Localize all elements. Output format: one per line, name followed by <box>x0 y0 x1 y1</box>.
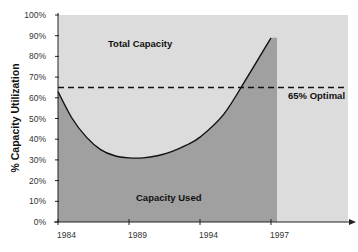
y-axis-label: % Capacity Utilization <box>9 63 21 172</box>
y-tick-label: 70% <box>29 72 46 82</box>
capacity-utilization-chart: 0%10%20%30%40%50%60%70%80%90%100% 198419… <box>0 0 358 252</box>
y-tick-label: 80% <box>29 51 46 61</box>
total-capacity-label: Total Capacity <box>108 38 173 49</box>
y-tick-label: 20% <box>29 176 46 186</box>
x-tick-label: 1994 <box>199 230 218 240</box>
y-tick-label: 30% <box>29 155 46 165</box>
y-tick-label: 90% <box>29 31 46 41</box>
y-tick-label: 100% <box>24 10 46 20</box>
x-tick-label: 1984 <box>57 230 76 240</box>
x-tick-label: 1989 <box>128 230 147 240</box>
y-tick-label: 0% <box>34 217 47 227</box>
optimal-label: 65% Optimal <box>288 90 345 101</box>
y-tick-label: 50% <box>29 114 46 124</box>
x-tick-label: 1997 <box>270 230 289 240</box>
y-tick-label: 60% <box>29 93 46 103</box>
y-axis-ticks: 0%10%20%30%40%50%60%70%80%90%100% <box>24 10 59 227</box>
capacity-used-label: Capacity Used <box>136 192 202 203</box>
y-tick-label: 10% <box>29 196 46 206</box>
y-tick-label: 40% <box>29 134 46 144</box>
